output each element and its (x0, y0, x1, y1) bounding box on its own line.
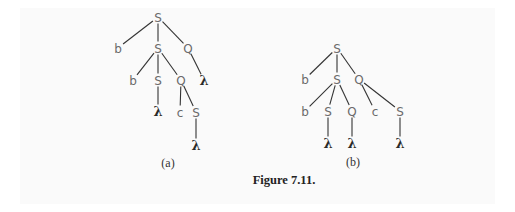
lambda-leaf: λ (323, 136, 332, 151)
tree-node: c (177, 106, 184, 120)
tree-edge (364, 83, 395, 107)
figure-caption: Figure 7.11. (253, 173, 316, 187)
parse-tree-figure: SbSQbSQλλcSλSbSQbSQcSλλλ (a)(b) Figure 7… (0, 0, 515, 212)
lambda-leaf: λ (395, 136, 404, 151)
tree-node: S (333, 73, 341, 87)
subfigure-label-a: (a) (161, 156, 174, 170)
tree-edge (330, 85, 335, 104)
tree-node: S (396, 105, 404, 119)
tree-node: S (154, 74, 162, 88)
subfigure-labels: (a)(b) (161, 155, 360, 170)
tree-edge (191, 54, 201, 74)
subfigure-label-b: (b) (346, 155, 360, 169)
lambda-leaf: λ (199, 73, 208, 88)
tree-edge (162, 53, 177, 74)
tree-node: b (129, 74, 137, 88)
tree-node: S (324, 105, 332, 119)
tree-node: S (333, 42, 341, 56)
lambda-leaf: λ (191, 138, 200, 153)
tree-edge (123, 21, 153, 44)
tree-node: c (372, 105, 379, 119)
tree-edge (341, 53, 355, 73)
tree-edge (180, 87, 181, 106)
lambda-leaf: λ (153, 104, 162, 119)
tree-edge (184, 86, 193, 106)
tree-node: b (301, 73, 309, 87)
tree-node: Q (347, 105, 356, 119)
tree-node: S (154, 11, 162, 25)
tree-edge (310, 53, 333, 75)
tree-node: S (154, 42, 162, 56)
tree-node: S (192, 106, 200, 120)
tree-edge (163, 22, 184, 44)
lambda-leaf: λ (347, 136, 356, 151)
tree-edge (340, 85, 349, 105)
tree-edge (137, 53, 154, 75)
tree-node: Q (183, 42, 192, 56)
tree-node: b (301, 105, 309, 119)
tree-node: b (114, 42, 122, 56)
tree-edge (310, 84, 333, 107)
tree-node: Q (176, 74, 185, 88)
tree-node: Q (354, 73, 363, 87)
